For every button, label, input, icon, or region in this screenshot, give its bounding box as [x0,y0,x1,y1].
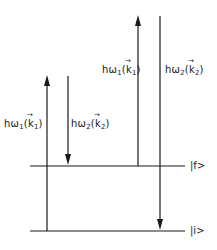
state-label-final: |f> [190,161,205,171]
label-hw1-k1-right: hω1(k1) [102,65,141,77]
arrowhead-down-icon [157,219,163,230]
label-paren: ) [106,118,110,129]
wavevector-symbol: k [189,65,195,75]
label-text: hω [4,118,19,129]
state-label-initial: |i> [190,226,205,236]
label-hw2-k2-left: hω2(k2) [71,119,110,131]
label-hw2-k2-right: hω2(k2) [165,65,204,77]
label-paren: ) [137,64,141,75]
wavevector-symbol: k [95,119,101,129]
arrowhead-down-icon [65,154,71,165]
wavevector-symbol: k [126,65,132,75]
label-paren: ) [39,118,43,129]
label-text: hω [71,118,86,129]
wavevector-symbol: k [28,119,34,129]
arrowhead-up-icon [135,15,141,26]
label-text: hω [102,64,117,75]
arrowhead-up-icon [44,75,50,86]
label-paren: ) [200,64,204,75]
label-hw1-k1-left: hω1(k1) [4,119,43,131]
label-text: hω [165,64,180,75]
